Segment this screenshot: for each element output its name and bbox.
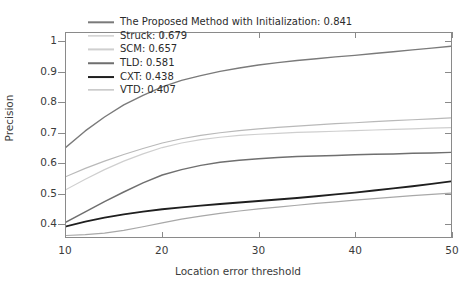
x-tick-label: 40: [335, 244, 375, 256]
legend-item[interactable]: TLD: 0.581: [88, 57, 352, 70]
legend-line-icon: [88, 57, 114, 69]
legend-item[interactable]: VTD: 0.407: [88, 84, 352, 97]
x-axis-title: Location error threshold: [0, 265, 476, 277]
legend-label: CXT: 0.438: [120, 71, 174, 83]
legend-label: TLD: 0.581: [120, 57, 175, 69]
legend-label: VTD: 0.407: [120, 84, 176, 96]
chart-figure: Precision Location error threshold 0.40.…: [0, 0, 476, 284]
y-tick-mark: [58, 133, 65, 134]
legend-item[interactable]: The Proposed Method with Initialization:…: [88, 16, 352, 29]
x-tick-label: 50: [432, 244, 472, 256]
legend-label: The Proposed Method with Initialization:…: [120, 16, 352, 28]
x-tick-label: 20: [142, 244, 182, 256]
x-tick-label: 10: [45, 244, 85, 256]
chart-legend: The Proposed Method with Initialization:…: [88, 16, 352, 97]
legend-item[interactable]: Struck: 0.679: [88, 30, 352, 43]
legend-line-icon: [88, 16, 114, 28]
legend-line-icon: [88, 43, 114, 55]
x-tick-mark: [452, 232, 453, 238]
y-tick-label: 0.6: [23, 156, 57, 168]
legend-label: SCM: 0.657: [120, 43, 177, 55]
legend-line-icon: [88, 71, 114, 83]
y-tick-label: 0.7: [23, 126, 57, 138]
series-line: [66, 118, 451, 177]
y-tick-mark: [58, 163, 65, 164]
series-line: [66, 152, 451, 222]
legend-label: Struck: 0.679: [120, 30, 187, 42]
y-axis-title: Precision: [3, 95, 15, 142]
y-tick-mark: [58, 224, 65, 225]
y-tick-label: 0.5: [23, 187, 57, 199]
y-tick-label: 0.4: [23, 217, 57, 229]
legend-line-icon: [88, 30, 114, 42]
legend-line-icon: [88, 84, 114, 96]
legend-item[interactable]: SCM: 0.657: [88, 43, 352, 56]
y-tick-mark: [58, 41, 65, 42]
y-tick-label: 0.8: [23, 95, 57, 107]
y-tick-label: 0.9: [23, 65, 57, 77]
y-tick-mark: [58, 102, 65, 103]
y-tick-label: 1: [23, 34, 57, 46]
y-tick-mark: [58, 194, 65, 195]
x-tick-mark-top: [452, 32, 453, 38]
x-tick-label: 30: [239, 244, 279, 256]
series-line: [66, 181, 451, 226]
y-tick-mark: [58, 72, 65, 73]
legend-item[interactable]: CXT: 0.438: [88, 70, 352, 83]
